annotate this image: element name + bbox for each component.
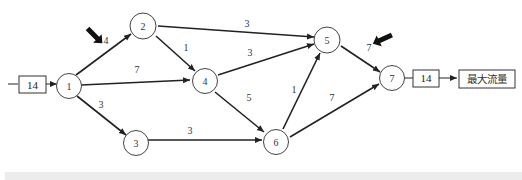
edge-label-2-4: 1 bbox=[184, 42, 189, 53]
edge-label-1-2: 4 bbox=[104, 35, 109, 46]
edge-label-6-7: 7 bbox=[330, 92, 335, 103]
network-diagram: 14 4 7 3 3 1 3 5 3 1 7 7 1 bbox=[0, 0, 522, 180]
edge-label-1-4: 7 bbox=[135, 64, 140, 75]
edge-4-5 bbox=[218, 44, 314, 75]
result-box-label: 最大流量 bbox=[467, 73, 508, 85]
edge-label-5-7: 7 bbox=[367, 42, 372, 53]
edge-4-6 bbox=[215, 92, 264, 132]
node-label-7: 7 bbox=[390, 73, 395, 84]
edge-label-2-5: 3 bbox=[245, 18, 250, 29]
edge-label-1-3: 3 bbox=[99, 99, 104, 110]
edge-label-4-6: 5 bbox=[247, 92, 252, 103]
bottom-strip bbox=[5, 172, 522, 180]
edge-6-7 bbox=[290, 84, 379, 137]
edge-label-3-6: 3 bbox=[188, 125, 193, 136]
node-label-5: 5 bbox=[325, 35, 330, 46]
edge-1-4 bbox=[81, 80, 190, 85]
edge-2-5 bbox=[158, 26, 314, 37]
edge-label-4-5: 3 bbox=[248, 47, 253, 58]
arrow-pointer-sink-icon bbox=[370, 29, 394, 49]
sink-box-label: 14 bbox=[421, 72, 433, 84]
source-box-label: 14 bbox=[27, 79, 39, 91]
node-label-4: 4 bbox=[203, 76, 208, 87]
node-label-1: 1 bbox=[67, 81, 72, 92]
edge-2-4 bbox=[156, 36, 195, 71]
edge-label-6-5: 1 bbox=[292, 84, 297, 95]
node-label-2: 2 bbox=[141, 21, 146, 32]
node-label-3: 3 bbox=[134, 138, 139, 149]
edge-6-5 bbox=[283, 53, 320, 129]
edge-5-7 bbox=[341, 46, 380, 72]
node-label-6: 6 bbox=[274, 137, 279, 148]
